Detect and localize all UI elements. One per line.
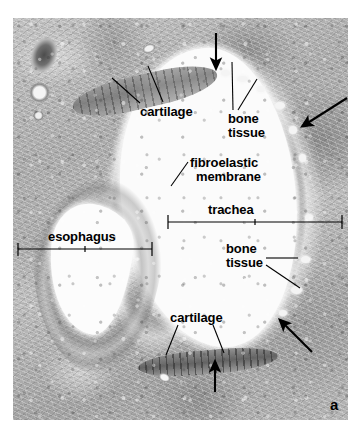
measure-bar-esophagus bbox=[18, 242, 152, 256]
label-fibroelastic: fibroelastic bbox=[190, 156, 258, 170]
leader-cartilage-bot-a bbox=[166, 325, 178, 355]
label-cartilage-bottom: cartilage bbox=[170, 311, 223, 325]
annotation-overlay bbox=[0, 0, 357, 436]
label-bone-tissue-bottom-line1: bone bbox=[226, 242, 257, 256]
label-bone-tissue-top-line2: tissue bbox=[228, 126, 265, 140]
label-bone-tissue-bottom-line2: tissue bbox=[226, 256, 263, 270]
panel-letter: a bbox=[330, 396, 338, 413]
leader-fibroelastic bbox=[171, 162, 188, 186]
label-trachea: trachea bbox=[208, 203, 254, 217]
leader-bone-top-a bbox=[232, 62, 233, 110]
leader-cartilage-top-b bbox=[148, 66, 163, 102]
arrow-lower-right-icon bbox=[283, 323, 312, 352]
label-bone-tissue-top-line1: bone bbox=[228, 112, 259, 126]
label-esophagus: esophagus bbox=[48, 230, 116, 244]
arrow-upper-right-icon bbox=[306, 98, 347, 124]
leader-cartilage-top-a bbox=[112, 78, 140, 103]
figure-panel: cartilage bone tissue fibroelastic membr… bbox=[0, 0, 357, 436]
leader-bone-top-b bbox=[238, 79, 257, 110]
measure-bar-trachea bbox=[168, 215, 342, 229]
label-membrane: membrane bbox=[196, 170, 261, 184]
leader-bone-bot-b bbox=[266, 265, 300, 288]
label-cartilage-top: cartilage bbox=[140, 105, 193, 119]
leader-cartilage-bot-b bbox=[213, 325, 224, 353]
